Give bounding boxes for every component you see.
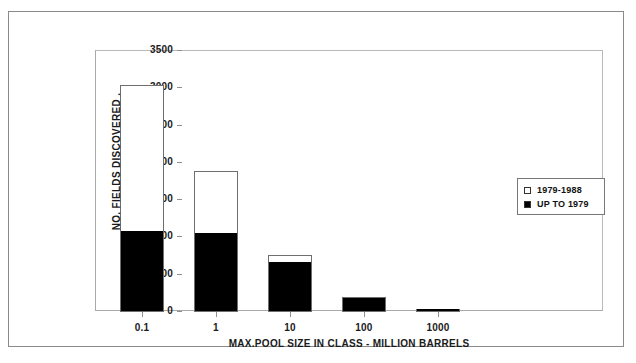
x-tick-mark xyxy=(438,312,439,317)
y-tick-mark xyxy=(177,87,182,88)
bar-1000 xyxy=(416,309,460,312)
chart-legend: 1979-1988 UP TO 1979 xyxy=(517,178,605,215)
bar-1 xyxy=(194,171,238,312)
y-tick-mark xyxy=(177,274,182,275)
y-tick-mark xyxy=(177,236,182,237)
legend-swatch-hollow-icon xyxy=(524,187,531,194)
bar-0.1 xyxy=(120,85,164,312)
y-tick-mark xyxy=(177,311,182,312)
x-tick-label: 1000 xyxy=(426,322,449,333)
legend-item-1979-1988: 1979-1988 xyxy=(524,183,599,197)
figure-frame: 0500100015002000250030003500 0.111010010… xyxy=(8,11,624,347)
x-tick-mark xyxy=(364,312,365,317)
bar-100 xyxy=(342,297,386,312)
bar-segment-up-to-1979 xyxy=(121,231,163,311)
x-tick-label: 100 xyxy=(355,322,372,333)
x-tick-label: 0.1 xyxy=(135,322,150,333)
bar-segment-up-to-1979 xyxy=(195,233,237,311)
chart-figure: 0500100015002000250030003500 0.111010010… xyxy=(0,0,636,363)
y-tick-mark xyxy=(177,199,182,200)
legend-label: UP TO 1979 xyxy=(537,199,589,209)
y-tick-mark xyxy=(177,125,182,126)
legend-swatch-filled-icon xyxy=(524,201,531,208)
x-tick-label: 10 xyxy=(284,322,296,333)
x-tick-mark xyxy=(290,312,291,317)
x-tick-label: 1 xyxy=(213,322,219,333)
legend-label: 1979-1988 xyxy=(537,185,582,195)
y-tick-mark xyxy=(177,50,182,51)
x-tick-mark xyxy=(142,312,143,317)
bar-segment-up-to-1979 xyxy=(269,262,311,311)
legend-item-up-to-1979: UP TO 1979 xyxy=(524,197,599,211)
y-tick-label: 0 xyxy=(167,305,173,316)
x-axis-title: MAX.POOL SIZE IN CLASS - MILLION BARRELS xyxy=(95,338,603,349)
x-tick-mark xyxy=(216,312,217,317)
bar-segment-up-to-1979 xyxy=(343,298,385,311)
bar-segment-up-to-1979 xyxy=(417,309,459,311)
bar-10 xyxy=(268,255,312,312)
y-axis-title: NO. FIELDS DISCOVERED . xyxy=(111,62,122,262)
y-tick-mark xyxy=(177,162,182,163)
y-tick-label: 3500 xyxy=(150,44,173,55)
plot-area: 0500100015002000250030003500 0.111010010… xyxy=(95,50,603,311)
